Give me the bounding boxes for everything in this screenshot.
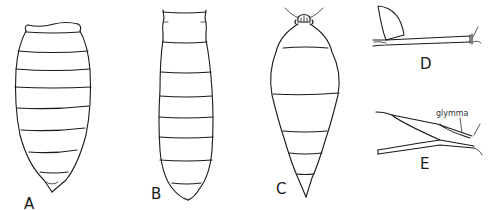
- figure-canvas: A B C: [0, 0, 499, 210]
- panel-b-label: B: [151, 185, 161, 203]
- panel-d-drawing: [373, 6, 481, 46]
- panel-c-label: C: [276, 180, 286, 198]
- panel-a-drawing: [15, 23, 91, 193]
- panel-c-drawing: [271, 8, 339, 197]
- panel-a-label: A: [24, 195, 35, 210]
- panel-b-drawing: [159, 10, 213, 200]
- panel-e-drawing: [376, 112, 482, 155]
- panel-d-label: D: [420, 55, 432, 73]
- glymma-annotation: glymma: [436, 109, 469, 118]
- panel-e-label: E: [420, 155, 429, 173]
